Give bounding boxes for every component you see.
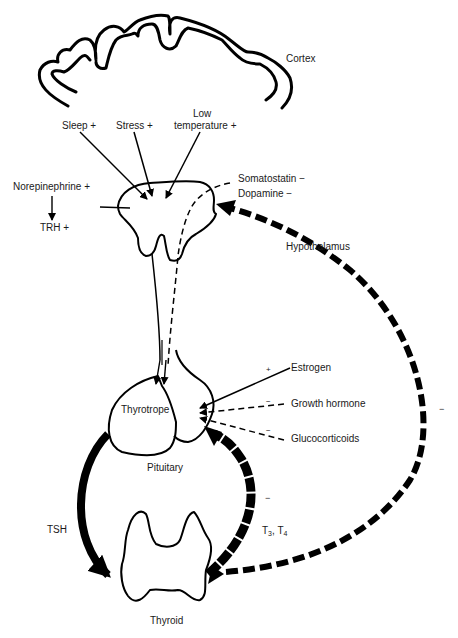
label-thyroid: Thyroid — [150, 615, 183, 627]
label-norepinephrine: Norepinephrine + — [13, 181, 90, 193]
sign-hypothalamus-feedback: − — [439, 403, 444, 415]
cortex-shape — [39, 15, 291, 108]
thyroid-shape — [121, 512, 211, 601]
label-growth-hormone: Growth hormone — [291, 398, 365, 410]
diagram-canvas: Cortex Low Sleep + Stress + temperature … — [0, 0, 458, 638]
label-low: Low — [193, 108, 211, 120]
label-thyrotrope: Thyrotrope — [121, 404, 169, 416]
label-trh: TRH + — [40, 222, 69, 234]
sign-glucocorticoids: − — [266, 425, 271, 437]
label-t3-t4: T3, T4 — [262, 525, 287, 540]
stimulus-arrows — [80, 132, 200, 199]
label-dopamine: Dopamine − — [238, 188, 292, 200]
label-pituitary: Pituitary — [147, 462, 183, 474]
sign-growth-hormone: − — [266, 396, 271, 408]
t4-subscript: 4 — [284, 530, 288, 537]
hypothalamus-shape — [118, 181, 216, 261]
pituitary-shape — [109, 350, 214, 455]
label-cortex: Cortex — [286, 53, 315, 65]
label-hypothalamus: Hypothalamus — [286, 241, 350, 253]
sign-pituitary-feedback: − — [265, 492, 270, 504]
label-temperature: temperature + — [174, 120, 237, 132]
norepinephrine-input-line — [100, 207, 130, 208]
estrogen-arrow — [200, 368, 290, 408]
tsh-arrow — [81, 434, 108, 575]
inhibitory-arrow-thyrotrope — [164, 360, 166, 384]
pituitary-stalk — [152, 254, 160, 360]
t3-t4-feedback-pituitary — [208, 434, 251, 574]
label-glucocorticoids: Glucocorticoids — [291, 433, 359, 445]
hypothalamus-feedback-arrowhead — [216, 200, 236, 216]
t3-t4-arrowhead-pituitary — [204, 426, 222, 446]
diagram-graphics — [0, 0, 458, 638]
label-tsh: TSH — [47, 524, 67, 536]
label-estrogen: Estrogen — [291, 362, 331, 374]
label-sleep: Sleep + — [62, 120, 96, 132]
sign-estrogen: + — [266, 364, 271, 376]
somatostatin-dopamine-path — [168, 183, 230, 366]
label-somatostatin: Somatostatin − — [238, 173, 305, 185]
t3-t4-feedback-hypothalamus — [226, 208, 424, 572]
label-stress: Stress + — [116, 120, 153, 132]
